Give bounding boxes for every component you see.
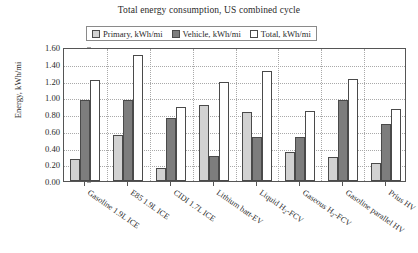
x-tick-label: Lithium batt-EV [215, 188, 265, 227]
x-tick-mark [213, 182, 214, 186]
bar[interactable] [381, 124, 391, 181]
bar-group [107, 49, 150, 181]
y-axis-tick-labels: 0.000.200.400.600.801.001.201.401.60 [28, 48, 60, 182]
y-tick-label: 0.80 [45, 110, 60, 120]
x-tick-label: CIDI 1.7L ICE [172, 188, 217, 224]
bar[interactable] [252, 137, 262, 181]
x-tick-mark [385, 182, 386, 186]
x-tick-label: Liquid H2-FCV [258, 188, 305, 225]
bar[interactable] [305, 111, 315, 181]
bar-group [64, 49, 107, 181]
bar[interactable] [285, 152, 295, 181]
bar[interactable] [199, 105, 209, 181]
bar-group [150, 49, 193, 181]
bar[interactable] [295, 137, 305, 181]
legend-label: Total, kWh/mi [261, 29, 311, 39]
y-tick-label: 1.00 [45, 93, 60, 103]
legend-label: Primary, kWh/mi [103, 29, 163, 39]
y-tick-label: 0.00 [45, 177, 60, 187]
bar[interactable] [176, 107, 186, 181]
y-tick-label: 1.40 [45, 60, 60, 70]
plot-area [63, 48, 406, 182]
legend-swatch-icon [92, 30, 100, 38]
bar[interactable] [156, 168, 166, 181]
chart-legend: Primary, kWh/miVehicle, kWh/miTotal, kWh… [86, 26, 317, 41]
x-tick-mark [256, 182, 257, 186]
bar[interactable] [338, 100, 348, 181]
bar[interactable] [166, 118, 176, 181]
bar-group [236, 49, 279, 181]
x-tick-mark [299, 182, 300, 186]
bar[interactable] [80, 100, 90, 181]
bar-group [364, 49, 406, 181]
bar[interactable] [70, 159, 80, 181]
x-tick-label: Prius HV [386, 188, 416, 213]
legend-entry[interactable]: Vehicle, kWh/mi [172, 29, 241, 39]
bar[interactable] [328, 157, 338, 181]
y-tick-label: 0.20 [45, 160, 60, 170]
x-tick-mark [342, 182, 343, 186]
bar[interactable] [90, 80, 100, 181]
y-tick-label: 0.60 [45, 127, 60, 137]
y-tick-label: 0.40 [45, 144, 60, 154]
x-tick-mark [170, 182, 171, 186]
legend-entry[interactable]: Total, kWh/mi [250, 29, 311, 39]
x-tick-label: E85 1.9L ICE [129, 188, 171, 221]
y-axis-title: Energy, kWh/mi [13, 45, 23, 135]
bar[interactable] [133, 55, 143, 181]
legend-swatch-icon [172, 30, 180, 38]
bar-group [321, 49, 364, 181]
bar[interactable] [262, 71, 272, 181]
y-tick-label: 1.20 [45, 77, 60, 87]
bar-group [193, 49, 236, 181]
bar-group [278, 49, 321, 181]
energy-consumption-bar-chart: Total energy consumption, US combined cy… [0, 0, 418, 253]
bar[interactable] [348, 79, 358, 181]
bar[interactable] [123, 100, 133, 181]
y-tick-label: 1.60 [45, 43, 60, 53]
chart-title: Total energy consumption, US combined cy… [0, 5, 418, 15]
bar[interactable] [242, 112, 252, 182]
bar[interactable] [391, 109, 401, 181]
bar[interactable] [371, 163, 381, 181]
x-tick-mark [127, 182, 128, 186]
legend-entry[interactable]: Primary, kWh/mi [92, 29, 163, 39]
bar[interactable] [113, 135, 123, 181]
bar[interactable] [209, 156, 219, 181]
x-tick-mark [84, 182, 85, 186]
legend-swatch-icon [250, 30, 258, 38]
bar[interactable] [219, 82, 229, 181]
legend-label: Vehicle, kWh/mi [183, 29, 241, 39]
